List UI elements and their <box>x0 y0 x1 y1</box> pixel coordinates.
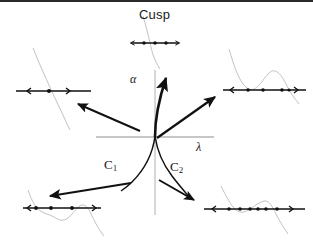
branch-label-c2: C2 <box>170 160 183 175</box>
lambda-axis-arrow <box>157 97 215 138</box>
root-dot <box>256 207 260 211</box>
lambda-axis-label: λ <box>196 141 201 153</box>
inset-top-right-curve <box>229 49 299 104</box>
inset-bottom-right <box>204 186 305 234</box>
cusp-bifurcation-figure: Cusp α λ C1 C2 <box>0 0 313 244</box>
alpha-axis-arrow <box>155 78 166 137</box>
branch-label-c2-subscript: 2 <box>179 165 184 175</box>
inset-top-right <box>223 49 306 104</box>
alpha-axis-label: α <box>130 73 136 85</box>
alpha-arrow-shaft <box>155 78 166 137</box>
root-dot <box>153 41 157 45</box>
branch-label-c1-subscript: 1 <box>113 163 118 173</box>
root-dot <box>142 41 145 44</box>
root-dot <box>34 206 38 210</box>
inset-bottom-left <box>23 190 104 236</box>
root-dot <box>227 207 231 211</box>
branch-label-c1: C1 <box>104 158 117 173</box>
arrow-to-bottom-left <box>50 183 131 196</box>
inset-bottom-left-curve <box>28 190 104 236</box>
inset-top-center <box>131 16 179 69</box>
root-dot <box>280 88 284 92</box>
root-dot <box>164 41 167 44</box>
root-dot <box>49 206 53 210</box>
root-dot <box>47 89 51 93</box>
lambda-arrow-shaft <box>157 97 215 138</box>
root-dot <box>248 207 252 211</box>
root-dot <box>261 88 265 92</box>
root-dot <box>287 88 290 91</box>
arrow-to-bottom-right <box>159 180 194 200</box>
top-rule <box>0 0 313 2</box>
root-dot <box>264 207 268 211</box>
arrow-to-top-left <box>78 104 140 131</box>
root-dot <box>275 207 279 211</box>
inset-top-left <box>16 48 91 130</box>
diagram-canvas <box>0 0 313 244</box>
branch-label-c2-base: C <box>170 159 179 174</box>
branch-label-c1-base: C <box>104 157 113 172</box>
root-dot <box>246 88 250 92</box>
root-dot <box>238 207 242 211</box>
pointer-arrows <box>50 104 194 200</box>
root-dot <box>70 206 74 210</box>
inset-top-left-curve <box>33 48 70 130</box>
cusp-title-label: Cusp <box>139 8 170 21</box>
